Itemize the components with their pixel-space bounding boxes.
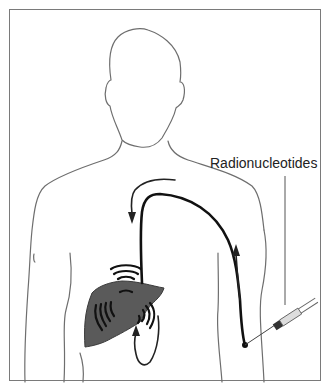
syringe-plunger-bottom — [301, 302, 318, 313]
syringe-needle — [245, 325, 275, 345]
left-elbow-mark — [34, 254, 35, 262]
radionucleotides-label: Radionucleotides — [210, 155, 317, 171]
arrow-head-up-right — [232, 244, 240, 256]
right-inner-torso — [217, 253, 222, 382]
left-inner-arm — [64, 253, 71, 382]
diagram-canvas — [0, 0, 327, 386]
flow-arrows — [128, 179, 240, 365]
arrow-head-down — [128, 212, 136, 224]
liver — [85, 265, 164, 347]
right-arm-outer — [260, 230, 266, 382]
body-outline — [25, 29, 266, 382]
syringe — [245, 297, 318, 345]
circulation-path — [141, 194, 248, 348]
arrow-downward-arc — [131, 179, 175, 214]
syringe-barrel — [279, 308, 301, 326]
vessel-line — [141, 194, 245, 345]
left-shoulder-arm-outer — [25, 141, 122, 382]
left-arm-crease — [80, 353, 83, 382]
syringe-plunger-top — [298, 298, 315, 309]
head-outline — [105, 29, 184, 148]
